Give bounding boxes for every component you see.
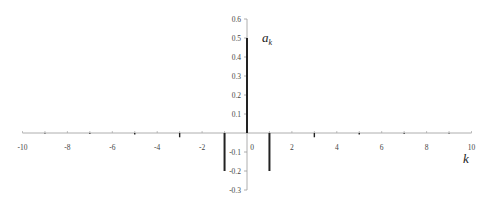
x-tick-label: 8 — [425, 143, 429, 152]
x-tick-label: -10 — [18, 143, 28, 152]
x-tick-label: -2 — [199, 143, 205, 152]
y-axis-title: ak — [262, 30, 273, 47]
x-axis-title: k — [463, 151, 469, 166]
x-tick-label: -8 — [64, 143, 70, 152]
y-tick-label: 0.4 — [232, 53, 242, 62]
y-tick-label: 0.5 — [232, 34, 242, 43]
x-tick-label: 4 — [335, 143, 339, 152]
x-axis: -10-8-6-4-20246810 — [18, 131, 476, 152]
x-tick-label: 2 — [290, 143, 294, 152]
y-tick-label: 0.3 — [232, 72, 242, 81]
y-tick-label: -0.1 — [229, 148, 241, 157]
y-tick-label: 0.6 — [232, 15, 242, 24]
y-tick-label: -0.2 — [229, 167, 241, 176]
x-tick-label: -4 — [154, 143, 160, 152]
x-tick-label: -6 — [109, 143, 115, 152]
x-tick-label: 6 — [380, 143, 384, 152]
y-tick-label: 0.1 — [232, 110, 242, 119]
y-tick-label: 0.2 — [232, 91, 242, 100]
x-tick-label: 10 — [468, 143, 476, 152]
stem-chart: 0.60.50.40.30.20.1-0.1-0.2-0.3 -10-8-6-4… — [0, 0, 490, 203]
x-tick-label: 0 — [250, 143, 254, 152]
y-axis: 0.60.50.40.30.20.1-0.1-0.2-0.3 — [229, 15, 247, 195]
y-tick-label: -0.3 — [229, 186, 241, 195]
